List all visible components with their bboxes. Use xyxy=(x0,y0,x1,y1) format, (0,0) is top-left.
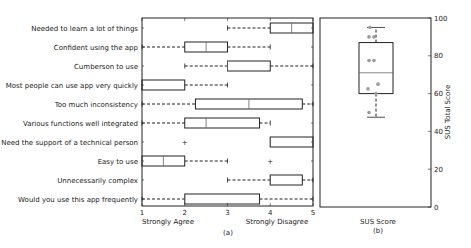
question-label: Most people can use app very quickly xyxy=(6,82,138,90)
iqr-box xyxy=(270,175,302,185)
x-label-sus-score: SUS Score xyxy=(360,218,396,226)
box-row xyxy=(142,118,270,128)
x-label-strongly-agree: Strongly Agree xyxy=(142,218,194,226)
iqr-box xyxy=(270,137,313,147)
question-label: Would you use this app frequently xyxy=(18,196,138,204)
x-tick-label: 1 xyxy=(140,209,144,217)
sus-box xyxy=(359,26,393,118)
question-label: Too much inconsistency xyxy=(54,101,138,109)
y-tick-label: 80 xyxy=(434,52,443,60)
x-tick-label: 2 xyxy=(183,209,187,217)
box-row xyxy=(142,42,270,52)
y-tick-label: 20 xyxy=(434,166,443,174)
likert-boxplot-panel: Needed to learn a lot of thingsConfident… xyxy=(1,18,315,237)
question-label: Confident using the app xyxy=(54,44,139,52)
data-point xyxy=(367,111,371,115)
iqr-box xyxy=(185,194,260,204)
data-point xyxy=(372,59,376,63)
box-row xyxy=(142,194,313,204)
iqr-box xyxy=(228,61,271,71)
likert-boxes: ++ xyxy=(142,23,313,204)
question-label: Needed to learn a lot of things xyxy=(31,25,138,33)
iqr-box xyxy=(185,118,260,128)
data-point xyxy=(366,87,370,91)
box-row xyxy=(185,61,313,71)
box-row xyxy=(142,99,313,109)
outlier-marker: + xyxy=(182,139,188,147)
x-tick-label: 4 xyxy=(268,209,273,217)
y-tick-label: 100 xyxy=(434,15,447,23)
data-point xyxy=(367,35,371,39)
data-point xyxy=(367,59,371,63)
x-tick-label: 3 xyxy=(225,209,229,217)
iqr-box xyxy=(359,43,393,94)
iqr-box xyxy=(142,80,185,90)
box-row xyxy=(142,80,228,90)
plot-b-frame xyxy=(320,18,431,207)
chart-figure: Needed to learn a lot of thingsConfident… xyxy=(0,0,471,248)
y-tick-label: 60 xyxy=(434,90,443,98)
y-label-sus-total: SUS Total Score xyxy=(444,85,452,139)
sus-boxplot-panel: 020406080100 SUS Score (b) SUS Total Sco… xyxy=(320,15,452,236)
x-tick-label: 5 xyxy=(311,209,315,217)
question-label: Various functions well integrated xyxy=(23,120,138,128)
data-point xyxy=(374,92,378,96)
data-point xyxy=(368,26,372,30)
box-row: + xyxy=(142,156,273,166)
y-tick-label: 40 xyxy=(434,128,443,136)
box-row xyxy=(228,175,314,185)
data-point xyxy=(376,82,380,86)
question-label: Need the support of a technical person xyxy=(1,139,138,147)
outlier-marker: + xyxy=(267,158,273,166)
question-label: Easy to use xyxy=(98,158,138,166)
caption-a: (a) xyxy=(223,229,233,237)
data-point xyxy=(372,35,376,39)
y-tick-label: 0 xyxy=(434,204,438,212)
question-label: Unnecessarily complex xyxy=(57,177,138,185)
caption-b: (b) xyxy=(373,227,383,235)
question-labels: Needed to learn a lot of thingsConfident… xyxy=(1,25,313,204)
box-row xyxy=(228,23,314,33)
x-label-strongly-disagree: Strongly Disagree xyxy=(246,218,308,226)
question-label: Cumberson to use xyxy=(74,63,138,71)
box-row: + xyxy=(182,137,313,147)
